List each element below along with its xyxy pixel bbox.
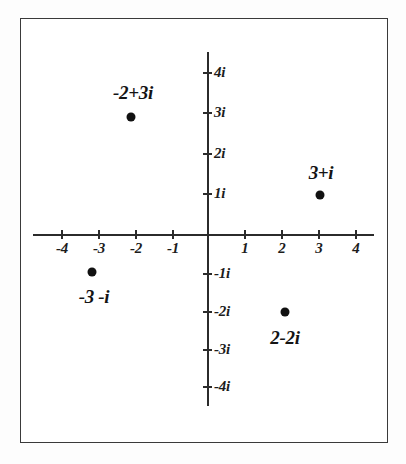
argand-diagram-figure: -4 -3 -2 -1 1 2 3 4 4i 3i 2i 1i -1i -2i … (0, 0, 406, 464)
x-tick-mark (61, 230, 63, 239)
y-tick-mark (203, 112, 212, 114)
x-tick-label: -2 (130, 240, 142, 257)
y-tick-label: 1i (214, 185, 225, 202)
x-tick-mark (98, 230, 100, 239)
y-tick-label: 4i (214, 64, 225, 81)
y-tick-mark (203, 72, 212, 74)
y-tick-mark (203, 193, 212, 195)
x-tick-mark (281, 230, 283, 239)
y-tick-mark (203, 349, 212, 351)
x-tick-label: -1 (167, 240, 179, 257)
y-tick-label: 3i (214, 104, 225, 121)
y-tick-mark (203, 153, 212, 155)
imaginary-axis-line (207, 52, 209, 406)
data-point-label: -3 -i (79, 286, 110, 308)
x-tick-label: -3 (93, 240, 105, 257)
y-tick-label: -4i (214, 378, 230, 395)
y-tick-label: -2i (214, 303, 230, 320)
x-tick-mark (318, 230, 320, 239)
x-tick-label: 4 (352, 240, 359, 257)
x-tick-label: 2 (278, 240, 285, 257)
data-point-label: -2+3i (113, 82, 153, 104)
y-tick-label: 2i (214, 145, 225, 162)
y-tick-label: -1i (214, 265, 230, 282)
x-tick-mark (135, 230, 137, 239)
x-tick-mark (244, 230, 246, 239)
y-tick-mark (203, 386, 212, 388)
data-point-label: 3+i (309, 162, 334, 184)
x-tick-mark (172, 230, 174, 239)
plot-area: -4 -3 -2 -1 1 2 3 4 4i 3i 2i 1i -1i -2i … (0, 0, 406, 464)
data-point-label: 2-2i (270, 327, 299, 349)
y-tick-mark (203, 273, 212, 275)
y-tick-label: -3i (214, 341, 230, 358)
data-point (316, 191, 325, 200)
x-tick-mark (355, 230, 357, 239)
real-axis-line (33, 234, 374, 236)
data-point (88, 268, 97, 277)
data-point (281, 308, 290, 317)
y-tick-mark (203, 311, 212, 313)
data-point (127, 113, 136, 122)
x-tick-label: -4 (56, 240, 68, 257)
x-tick-label: 1 (241, 240, 248, 257)
x-tick-label: 3 (315, 240, 322, 257)
